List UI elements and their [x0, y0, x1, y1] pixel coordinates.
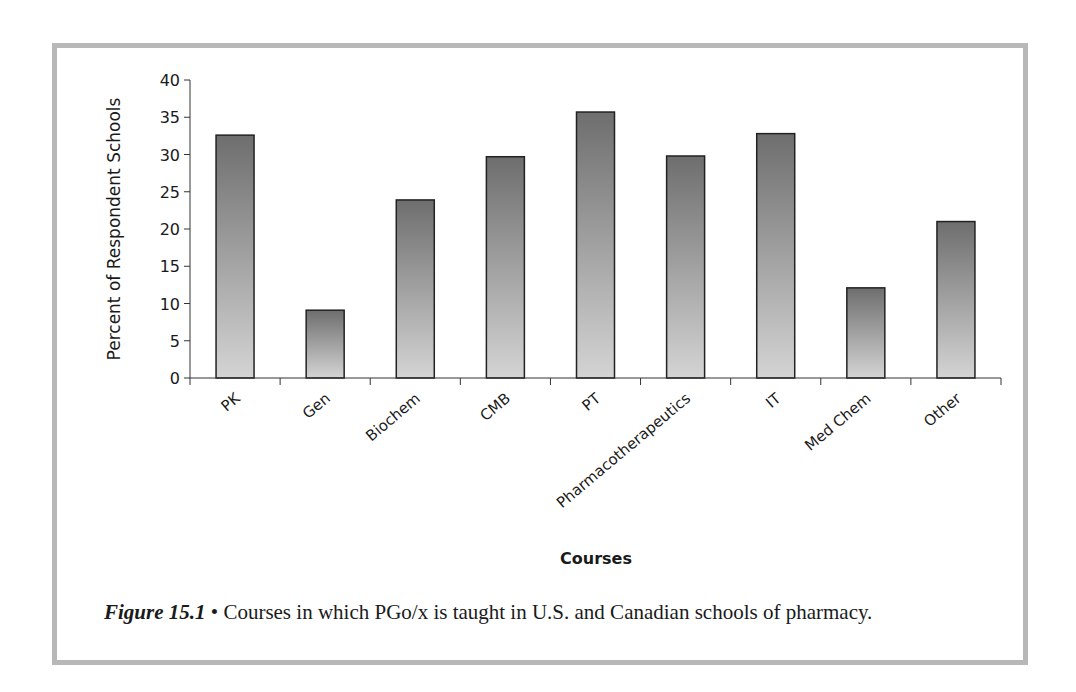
x-tick-label: Biochem — [362, 389, 424, 445]
y-axis-label: Percent of Respondent Schools — [104, 97, 124, 360]
bar-pharmacotherapeutics — [667, 156, 705, 378]
bar-gen — [306, 310, 344, 378]
caption-text: Courses in which PGo/x is taught in U.S.… — [223, 600, 872, 624]
y-tick-label: 15 — [160, 257, 180, 276]
y-tick-label: 40 — [160, 71, 180, 90]
bar-pt — [577, 112, 615, 378]
y-tick-label: 5 — [170, 332, 180, 351]
bars — [216, 112, 975, 378]
bar-chart: 0510152025303540 PKGenBiochemCMBPTPharma… — [0, 0, 1076, 692]
y-tick-label: 25 — [160, 183, 180, 202]
y-axis: 0510152025303540 — [160, 71, 190, 388]
y-tick-label: 0 — [170, 369, 180, 388]
figure-label: Figure 15.1 — [104, 600, 206, 624]
bar-other — [937, 222, 975, 378]
x-axis-label: Courses — [560, 549, 632, 568]
bar-pk — [216, 135, 254, 378]
x-axis: PKGenBiochemCMBPTPharmacotherapeuticsITM… — [190, 378, 1001, 512]
x-tick-label: IT — [762, 389, 785, 412]
x-tick-label: Other — [920, 389, 965, 431]
y-tick-label: 30 — [160, 146, 180, 165]
x-tick-label: Med Chem — [801, 389, 874, 454]
bar-med-chem — [847, 288, 885, 378]
x-tick-label: Pharmacotherapeutics — [553, 389, 694, 512]
x-tick-label: CMB — [477, 389, 514, 424]
x-tick-label: PT — [579, 389, 605, 415]
x-tick-label: PK — [218, 389, 245, 416]
caption-bullet: • — [211, 600, 218, 624]
bar-biochem — [396, 200, 434, 378]
figure-caption: Figure 15.1 • Courses in which PGo/x is … — [104, 600, 1004, 625]
bar-it — [757, 134, 795, 378]
bar-cmb — [486, 157, 524, 378]
x-tick-label: Gen — [299, 389, 334, 422]
y-tick-label: 35 — [160, 108, 180, 127]
y-tick-label: 10 — [160, 295, 180, 314]
y-tick-label: 20 — [160, 220, 180, 239]
